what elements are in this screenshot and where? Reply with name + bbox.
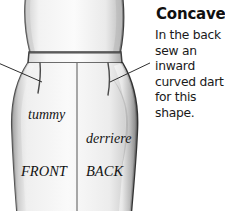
upper-torso-shape bbox=[25, 0, 123, 52]
torso-illustration: tummy derriere FRONT BACK bbox=[0, 0, 150, 211]
label-back: BACK bbox=[86, 163, 124, 179]
body-line: for this bbox=[155, 90, 225, 106]
label-front: FRONT bbox=[20, 163, 68, 179]
text-panel: Concave In the back sew an inward curved… bbox=[153, 0, 225, 211]
panel-body-text: In the back sew an inward curved dart fo… bbox=[155, 28, 225, 122]
body-line: sew an bbox=[155, 44, 225, 60]
body-line: inward bbox=[155, 59, 225, 75]
concave-figure-panel: tummy derriere FRONT BACK Concave In the… bbox=[0, 0, 225, 211]
panel-heading: Concave bbox=[156, 5, 225, 23]
body-line: shape. bbox=[155, 106, 225, 122]
waistband bbox=[28, 52, 122, 63]
body-line: curved dart bbox=[155, 75, 225, 91]
label-tummy: tummy bbox=[28, 107, 66, 122]
body-line: In the back bbox=[155, 28, 225, 44]
label-derriere: derriere bbox=[86, 131, 131, 146]
